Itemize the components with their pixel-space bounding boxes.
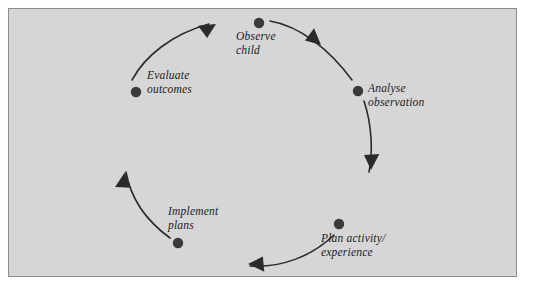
arc-implement-to-evaluate xyxy=(126,172,170,238)
node-label-plan-activity-experience: Plan activity/ experience xyxy=(321,232,385,259)
node-dot-evaluate-outcomes xyxy=(131,87,141,97)
cycle-arcs xyxy=(126,21,371,266)
arc-observe-to-analyse xyxy=(270,21,352,80)
node-dot-plan-activity-experience xyxy=(334,219,344,229)
node-dot-analyse-observation xyxy=(353,86,363,96)
node-dot-implement-plans xyxy=(173,238,183,248)
node-label-observe-child: Observe child xyxy=(236,30,276,57)
node-label-implement-plans: Implement plans xyxy=(168,205,218,232)
node-dot-observe-child xyxy=(254,18,264,28)
arrowhead-evaluate-to-observe xyxy=(198,19,220,40)
observation-cycle-figure: Observe child Analyse observation Plan a… xyxy=(0,0,533,290)
node-label-evaluate-outcomes: Evaluate outcomes xyxy=(147,69,192,96)
arrowhead-plan-to-implement xyxy=(247,255,265,272)
arrowhead-analyse-to-plan xyxy=(362,152,379,171)
node-label-analyse-observation: Analyse observation xyxy=(368,82,425,109)
